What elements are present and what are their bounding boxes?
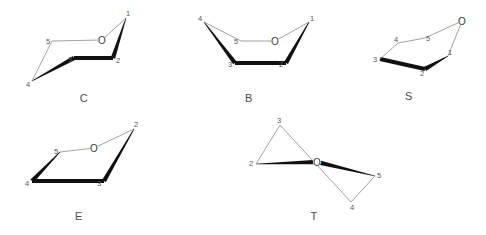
atom-label-E-4: 4 bbox=[25, 179, 29, 188]
atom-label-S-5: 5 bbox=[426, 34, 430, 43]
atom-label-B-1: 1 bbox=[310, 14, 314, 23]
atom-label-S-2: 2 bbox=[420, 69, 424, 78]
atom-label-C-1: 1 bbox=[126, 9, 130, 18]
atom-label-C-3: 3 bbox=[68, 55, 72, 64]
bond-thin bbox=[52, 40, 102, 41]
conformer-figure: 12345OC12345OB12345OS2345OE2345OT bbox=[0, 0, 486, 235]
atom-label-oxygen-B: O bbox=[271, 36, 279, 47]
bond-wedge bbox=[424, 56, 448, 71]
bond-wedge bbox=[256, 160, 317, 165]
conformer-caption-S: S bbox=[405, 90, 413, 102]
atom-label-oxygen-S: O bbox=[458, 16, 466, 27]
atom-label-T-3: 3 bbox=[277, 116, 281, 125]
conformer-caption-B: B bbox=[245, 92, 253, 104]
conformer-B bbox=[204, 22, 310, 65]
bond-bold bbox=[380, 59, 425, 69]
atom-label-C-5: 5 bbox=[46, 37, 50, 46]
conformer-S bbox=[380, 21, 462, 71]
atom-label-oxygen-C: O bbox=[98, 35, 106, 46]
atom-label-T-5: 5 bbox=[377, 171, 381, 180]
bond-thin bbox=[351, 176, 375, 202]
conformer-C bbox=[32, 18, 127, 81]
atom-label-S-4: 4 bbox=[394, 35, 398, 44]
atom-label-S-3: 3 bbox=[373, 55, 377, 64]
atom-label-oxygen-T: O bbox=[313, 157, 321, 168]
bond-thin bbox=[380, 43, 398, 59]
atom-label-oxygen-E: O bbox=[90, 143, 98, 154]
bond-wedge bbox=[30, 152, 60, 183]
atom-label-T-4: 4 bbox=[350, 203, 354, 212]
bond-wedge bbox=[204, 22, 237, 65]
bond-thin bbox=[60, 148, 94, 152]
atom-label-T-2: 2 bbox=[249, 159, 253, 168]
atom-label-S-1: 1 bbox=[448, 48, 452, 57]
conformer-caption-C: C bbox=[80, 92, 88, 104]
atom-label-E-2: 2 bbox=[134, 120, 138, 129]
conformer-caption-E: E bbox=[75, 210, 83, 222]
atom-label-E-5: 5 bbox=[54, 147, 58, 156]
atom-label-B-4: 4 bbox=[198, 14, 202, 23]
bond-thin bbox=[398, 38, 425, 43]
atom-label-B-3: 3 bbox=[228, 60, 232, 69]
atom-label-C-4: 4 bbox=[26, 80, 30, 89]
conformer-E bbox=[30, 129, 134, 183]
atom-label-C-2: 2 bbox=[116, 56, 120, 65]
conformer-drawing-canvas bbox=[0, 0, 486, 235]
bond-wedge bbox=[111, 18, 126, 59]
atom-label-B-2: 2 bbox=[279, 60, 283, 69]
atom-label-B-5: 5 bbox=[234, 37, 238, 46]
atom-label-E-3: 3 bbox=[97, 179, 101, 188]
bond-wedge bbox=[284, 22, 309, 64]
bond-thin bbox=[256, 125, 280, 164]
conformer-caption-T: T bbox=[310, 210, 317, 222]
